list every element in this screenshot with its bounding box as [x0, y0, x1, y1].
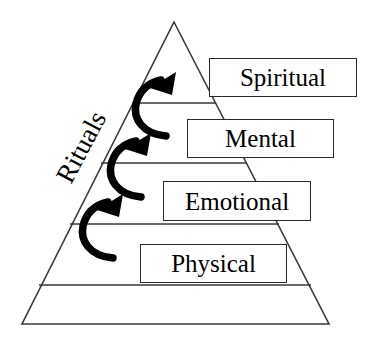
tier-box-spiritual: Spiritual: [209, 58, 357, 97]
tier-label-spiritual: Spiritual: [240, 65, 326, 90]
tier-box-mental: Mental: [187, 119, 334, 158]
pyramid-diagram: Spiritual Mental Emotional Physical Ritu…: [0, 0, 376, 347]
tier-box-physical: Physical: [140, 244, 287, 283]
tier-label-physical: Physical: [171, 251, 256, 276]
tier-label-emotional: Emotional: [185, 189, 289, 214]
tier-box-emotional: Emotional: [163, 181, 311, 221]
tier-label-mental: Mental: [225, 126, 296, 151]
